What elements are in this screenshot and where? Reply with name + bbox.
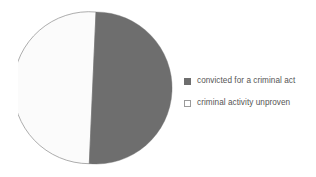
- legend-swatch-filled-square-icon: [184, 78, 191, 85]
- legend-label-unproven: criminal activity unproven: [197, 98, 290, 108]
- legend-item-convicted[interactable]: convicted for a criminal act: [184, 70, 314, 92]
- pie-chart-plot-area: [18, 6, 174, 170]
- legend-label-convicted: convicted for a criminal act: [197, 76, 295, 86]
- pie-slice-criminal-activity-unproven[interactable]: [18, 12, 96, 164]
- legend-item-unproven[interactable]: criminal activity unproven: [184, 92, 314, 114]
- pie-slice-convicted-for-a-criminal-act[interactable]: [89, 12, 172, 164]
- legend-swatch-hollow-square-icon: [184, 100, 191, 107]
- pie-chart-figure: convicted for a criminal act criminal ac…: [0, 0, 316, 177]
- pie-chart-svg: [18, 6, 174, 170]
- chart-legend: convicted for a criminal act criminal ac…: [184, 70, 314, 114]
